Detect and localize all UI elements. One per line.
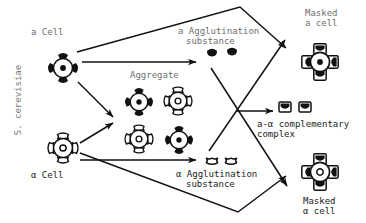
- label-masked-alpha-line1: Masked: [303, 196, 336, 206]
- label-masked-a-line2: a cell: [305, 18, 338, 28]
- masked-a-cell-glyph: [302, 44, 338, 80]
- label-a-cell: a Cell: [31, 27, 64, 37]
- a-cell-glyph: [48, 53, 78, 83]
- aggregate-cluster: [125, 87, 193, 154]
- label-complex-line2: complex: [257, 129, 295, 139]
- label-a-agglutination-line1: a Agglutination: [178, 26, 259, 36]
- masked-alpha-cell-glyph: [302, 154, 338, 190]
- label-alpha-agglutination-line1: α Agglutination: [176, 169, 257, 179]
- label-masked-alpha-line2: α cell: [303, 206, 336, 216]
- alpha-cell-glyph: [48, 133, 78, 163]
- arrow-acell-to-aggregate: [78, 82, 113, 117]
- complementary-complex-glyphs: [279, 102, 311, 112]
- alpha-substance-glyphs: [206, 158, 236, 164]
- label-alpha-cell: α Cell: [31, 170, 64, 180]
- label-masked-a-line1: Masked: [305, 8, 338, 18]
- label-aggregate: Aggregate: [130, 70, 179, 80]
- label-complex-line1: a-α complementary: [257, 119, 349, 129]
- a-substance-glyphs: [207, 48, 237, 57]
- arrow-alphacell-to-aggregate: [80, 123, 113, 143]
- arrow-alphacell-to-masked-alpha-cell: [80, 153, 286, 212]
- label-a-agglutination-line2: substance: [186, 36, 235, 46]
- diagram-canvas: S. cerevisiae: [0, 0, 366, 223]
- label-alpha-agglutination-line2: substance: [186, 179, 235, 189]
